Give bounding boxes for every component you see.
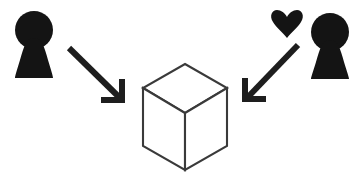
diagram-canvas: Two observers directing attention at a c… [0, 0, 358, 184]
diagram-svg [0, 0, 358, 184]
cube-object [143, 64, 227, 170]
